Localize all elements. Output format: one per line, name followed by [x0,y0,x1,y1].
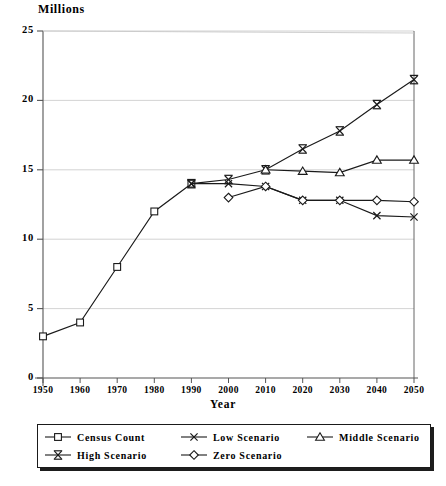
chart-legend: Census CountHigh ScenarioLow ScenarioZer… [37,424,431,468]
data-point-marker-square [55,434,62,441]
data-point-marker-diamond [373,196,382,205]
population-projection-chart: Millions 0510152025 19501960197019801990… [0,0,446,486]
data-point-marker-square [77,319,84,326]
legend-label: Census Count [77,432,145,443]
legend-item-middle-scenario[interactable]: Middle Scenario [306,429,420,445]
page-edge-artifact [0,479,200,486]
plot-area [0,0,446,486]
data-point-marker-square [151,208,158,215]
legend-label: Middle Scenario [339,432,420,443]
data-point-marker-i-bar [373,100,381,108]
data-point-marker-i-bar [299,145,307,153]
series-line [43,184,191,337]
data-point-marker-diamond [410,197,419,206]
legend-item-census-count[interactable]: Census Count [44,429,145,445]
series-line [229,186,415,201]
data-point-marker-diamond [190,451,199,460]
legend-marker-triangle-icon [306,430,334,444]
data-point-marker-i-bar [336,127,344,135]
legend-label: Zero Scenario [213,450,282,461]
legend-label: High Scenario [77,450,147,461]
legend-label: Low Scenario [213,432,280,443]
series-census-count [40,180,195,339]
data-point-marker-diamond [224,193,233,202]
legend-item-zero-scenario[interactable]: Zero Scenario [180,447,282,463]
legend-marker-diamond-icon [180,448,208,462]
data-point-marker-square [40,333,47,340]
legend-marker-i-bar-icon [44,448,72,462]
legend-marker-square-icon [44,430,72,444]
legend-item-high-scenario[interactable]: High Scenario [44,447,147,463]
legend-item-low-scenario[interactable]: Low Scenario [180,429,280,445]
data-point-marker-square [114,264,121,271]
legend-marker-x-icon [180,430,208,444]
